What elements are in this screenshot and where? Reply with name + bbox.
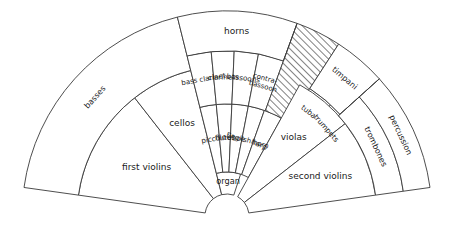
- label-first-violins: first violins: [122, 162, 171, 172]
- label-second-violins: second violins: [288, 171, 352, 181]
- label-violas: violas: [281, 132, 307, 142]
- orchestra-fan-svg: first violinscellosbassesorganpiccoloflu…: [0, 0, 450, 236]
- label-cellos: cellos: [169, 118, 195, 128]
- label-horns: horns: [224, 26, 249, 36]
- orchestra-seating-diagram: first violinscellosbassesorganpiccoloflu…: [0, 0, 450, 236]
- label-organ: organ: [216, 176, 240, 186]
